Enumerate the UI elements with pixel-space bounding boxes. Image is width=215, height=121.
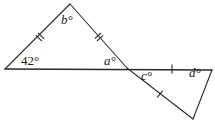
angle-label-c: c° [141,69,152,82]
angle-label-b: b° [61,13,73,26]
angle-label-42: 42° [21,54,39,67]
angle-label-a: a° [104,54,116,67]
angle-label-d: d° [189,66,201,79]
tick-left-leg [36,33,44,41]
geometry-figure: 42° b° a° c° d° [0,0,215,121]
baseline-segment [5,69,212,70]
